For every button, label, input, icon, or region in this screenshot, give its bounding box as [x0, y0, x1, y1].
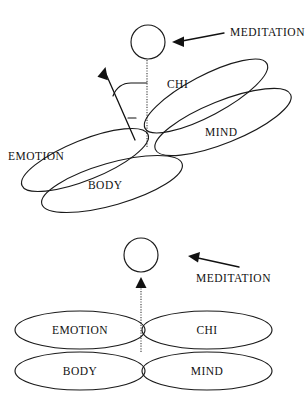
top-tilt-arrow-shaft: [106, 74, 135, 140]
bottom-panel: EMOTION CHI BODY MIND MEDITATION: [15, 238, 272, 390]
bottom-meditation-arrow-shaft: [198, 258, 239, 267]
bottom-label-chi: CHI: [196, 324, 217, 336]
bottom-label-mind: MIND: [191, 365, 223, 377]
bottom-meditation-arrow-head: [188, 252, 200, 263]
top-label-meditation: MEDITATION: [230, 26, 305, 38]
top-panel: EMOTION BODY CHI MIND MEDITATION: [8, 25, 305, 224]
top-label-body: BODY: [88, 179, 123, 191]
top-label-emotion: EMOTION: [8, 150, 64, 162]
top-label-chi: CHI: [167, 78, 188, 90]
bottom-meditation-circle: [124, 238, 158, 272]
bottom-label-meditation: MEDITATION: [196, 272, 271, 284]
top-label-mind: MIND: [205, 126, 237, 138]
diagram-canvas: EMOTION BODY CHI MIND MEDITATION EMOTION…: [0, 0, 305, 413]
bottom-alignment-arrow-head: [136, 277, 147, 288]
diagram-root: EMOTION BODY CHI MIND MEDITATION EMOTION…: [0, 0, 305, 413]
bottom-label-body: BODY: [63, 365, 98, 377]
top-tilt-arrow-head: [97, 66, 112, 81]
top-angle-arc-icon: [113, 83, 147, 96]
top-meditation-arrow-shaft: [182, 33, 224, 41]
top-meditation-circle: [131, 25, 165, 59]
bottom-label-emotion: EMOTION: [52, 324, 108, 336]
top-meditation-arrow-head: [172, 37, 184, 48]
